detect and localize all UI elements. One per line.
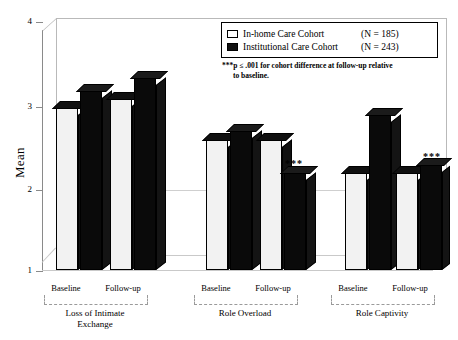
legend-swatch-dark-icon [227, 43, 238, 51]
legend-n-institutional: (N = 243) [361, 42, 399, 52]
legend-swatch-light-icon [227, 30, 238, 38]
bar-top [226, 124, 264, 132]
y-tick-label-3: 3 [18, 102, 32, 111]
legend-footnote-line2: to baseline. [233, 71, 437, 81]
bar-side [306, 172, 316, 270]
bar-face [345, 173, 367, 270]
cat-tick-captivity-followup: Follow-up [380, 284, 440, 293]
bar-top [365, 108, 403, 116]
y-tick-label-1: 1 [18, 266, 32, 275]
cat-tick-overload-baseline: Baseline [186, 284, 246, 293]
y-tick-mark-1 [36, 271, 43, 272]
cat-group-overload-line1: Role Overload [219, 308, 272, 318]
significance-mark-overload-followup: *** [285, 160, 303, 168]
bar-top [256, 133, 294, 141]
bar-face [260, 140, 282, 270]
bar-captivity-followup-inhome [396, 173, 418, 270]
bar-face [369, 115, 391, 270]
cat-brace-overload [194, 295, 298, 305]
cat-group-captivity-line1: Role Captivity [356, 308, 409, 318]
floor-front-line [42, 270, 433, 271]
bar-loss-followup-inhome [110, 99, 132, 270]
bar-face [396, 173, 418, 270]
bar-captivity-baseline-inhome [345, 173, 367, 270]
y-tick-label-2: 2 [18, 185, 32, 194]
cat-tick-loss-baseline: Baseline [36, 284, 96, 293]
y-tick-mark-4 [36, 22, 43, 23]
bar-overload-followup-institutional [284, 173, 306, 270]
bar-captivity-followup-institutional [420, 165, 442, 270]
bar-loss-baseline-institutional [80, 91, 102, 270]
bar-face [110, 99, 132, 270]
bar-overload-baseline-inhome [206, 140, 228, 270]
bar-face [284, 173, 306, 270]
bar-face [80, 91, 102, 270]
legend-footnote: ***p ≤ .001 for cohort difference at fol… [222, 61, 437, 81]
cat-group-overload: Role Overload [195, 308, 295, 319]
cat-group-loss-line2: Exchange [77, 319, 112, 329]
significance-mark-captivity-followup: *** [423, 153, 441, 161]
bar-face [420, 165, 442, 270]
legend-label-institutional: Institutional Care Cohort [243, 42, 361, 52]
y-axis-label: Mean [12, 147, 28, 178]
cat-tick-loss-followup: Follow-up [93, 284, 153, 293]
bar-loss-followup-institutional [134, 78, 156, 270]
bar-captivity-baseline-institutional [369, 115, 391, 270]
legend-item-inhome: In-home Care Cohort (N = 185) [227, 27, 431, 40]
y-tick-mark-2 [36, 190, 43, 191]
bar-overload-baseline-institutional [230, 131, 252, 270]
frame-back-top [56, 18, 447, 19]
legend-item-institutional: Institutional Care Cohort (N = 243) [227, 40, 431, 53]
cat-brace-loss [44, 295, 148, 305]
bar-face [230, 131, 252, 270]
y-tick-label-4: 4 [18, 17, 32, 26]
y-tick-mark-3 [36, 107, 43, 108]
bar-loss-baseline-inhome [56, 108, 78, 270]
bar-chart: 4 3 2 1 Mean [0, 0, 458, 340]
cat-group-captivity: Role Captivity [332, 308, 432, 319]
bar-face [206, 140, 228, 270]
bar-top [130, 71, 168, 79]
legend-n-inhome: (N = 185) [361, 29, 399, 39]
bar-side [442, 166, 450, 270]
cat-tick-overload-followup: Follow-up [243, 284, 303, 293]
bar-face [56, 108, 78, 270]
legend: In-home Care Cohort (N = 185) Institutio… [221, 22, 438, 58]
legend-label-inhome: In-home Care Cohort [243, 29, 361, 39]
cat-brace-captivity [331, 295, 435, 305]
floor-depth-left [42, 248, 56, 263]
bar-overload-followup-inhome [260, 140, 282, 270]
cat-group-loss: Loss of Intimate Exchange [45, 308, 145, 330]
cat-tick-captivity-baseline: Baseline [323, 284, 383, 293]
cat-group-loss-line1: Loss of Intimate [66, 308, 125, 318]
legend-footnote-line1: ***p ≤ .001 for cohort difference at fol… [222, 61, 393, 70]
y-axis-line [42, 30, 43, 270]
bar-face [134, 78, 156, 270]
bar-side [156, 77, 166, 270]
bar-top [76, 84, 114, 92]
